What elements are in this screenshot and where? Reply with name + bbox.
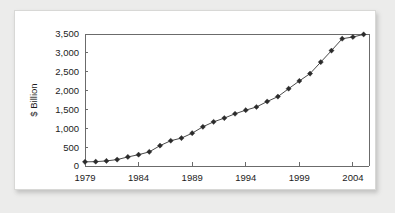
y-axis-tick-labels: 05001,0001,5002,0002,5003,0003,500 [55, 28, 79, 171]
data-point-marker [350, 34, 355, 39]
x-tick-label: 1984 [128, 172, 149, 183]
series-markers [82, 32, 366, 165]
series-line [85, 34, 364, 161]
y-tick-label: 1,000 [55, 123, 79, 134]
data-point-marker [222, 116, 227, 121]
data-point-marker [190, 131, 195, 136]
data-point-marker [361, 32, 366, 37]
x-tick-label: 1979 [74, 172, 95, 183]
data-point-marker [125, 154, 130, 159]
y-axis-title: $ Billion [28, 83, 39, 116]
page-background: 05001,0001,5002,0002,5003,0003,500 19791… [0, 0, 395, 213]
x-tick-label: 1989 [182, 172, 203, 183]
x-axis-tick-labels: 197919841989199419992004 [74, 172, 363, 183]
chart-panel: 05001,0001,5002,0002,5003,0003,500 19791… [14, 10, 376, 190]
data-point-marker [179, 135, 184, 140]
data-point-marker [115, 157, 120, 162]
data-point-marker [147, 149, 152, 154]
data-point-marker [200, 124, 205, 129]
data-point-marker [157, 143, 162, 148]
data-point-marker [82, 159, 87, 164]
data-point-marker [136, 152, 141, 157]
data-point-marker [232, 111, 237, 116]
data-point-marker [243, 108, 248, 113]
y-tick-label: 1,500 [55, 104, 79, 115]
y-tick-label: 3,000 [55, 47, 79, 58]
y-tick-label: 2,500 [55, 66, 79, 77]
y-tick-label: 3,500 [55, 28, 79, 39]
y-tick-label: 0 [74, 160, 79, 171]
x-tick-label: 1999 [289, 172, 310, 183]
data-point-marker [93, 159, 98, 164]
data-point-marker [211, 119, 216, 124]
line-chart: 05001,0001,5002,0002,5003,0003,500 19791… [15, 11, 375, 189]
y-tick-label: 2,000 [55, 85, 79, 96]
axis-tick-marks [85, 34, 353, 166]
axis-frame [85, 34, 369, 166]
y-tick-label: 500 [63, 142, 79, 153]
data-point-marker [168, 138, 173, 143]
data-point-marker [265, 99, 270, 104]
data-point-marker [254, 104, 259, 109]
x-tick-label: 1994 [235, 172, 256, 183]
data-point-marker [104, 158, 109, 163]
x-tick-label: 2004 [342, 172, 363, 183]
